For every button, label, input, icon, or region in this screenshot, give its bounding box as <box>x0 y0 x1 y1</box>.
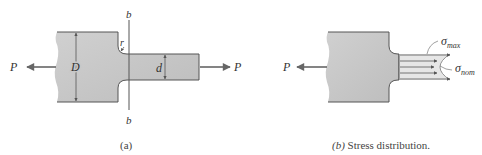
caption-a: (a) <box>120 139 133 152</box>
force-label-left-a: P <box>9 60 18 74</box>
figure-b: σmax σnom P (b) Stress distribution. <box>282 32 475 152</box>
section-label-bottom: b <box>126 114 132 126</box>
stress-concentration-diagram: b b r D d P P (a) <box>0 0 482 155</box>
caption-b: (b) Stress distribution. <box>332 139 430 152</box>
large-diameter-label: D <box>70 60 80 74</box>
fillet-radius-label: r <box>120 37 124 48</box>
stepped-bar-b <box>326 32 399 102</box>
section-label-top: b <box>126 8 132 20</box>
figure-a: b b r D d P P (a) <box>9 8 242 152</box>
sigma-nom-label: σnom <box>455 61 475 77</box>
force-label-left-b: P <box>282 60 291 74</box>
small-diameter-label: d <box>156 61 163 75</box>
force-label-right-a: P <box>233 60 242 74</box>
sigma-max-label: σmax <box>441 34 461 50</box>
